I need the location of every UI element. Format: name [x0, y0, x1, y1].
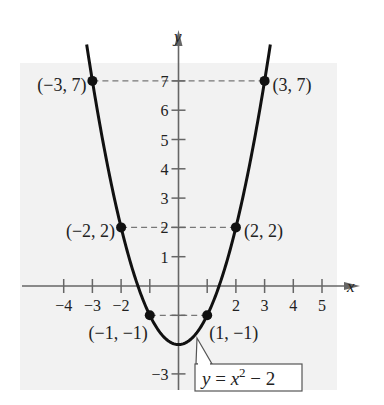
x-tick-label: −4 — [55, 297, 72, 314]
y-tick-label: 2 — [161, 219, 169, 236]
data-point-dot — [202, 310, 212, 320]
data-point-dot — [145, 310, 155, 320]
y-tick-label: 3 — [161, 190, 169, 207]
x-tick-label: 4 — [289, 297, 297, 314]
x-tick-label: −2 — [113, 297, 130, 314]
point-label: (−1, −1) — [89, 323, 148, 344]
equation-part: − 2 — [246, 368, 276, 389]
y-tick-label: 6 — [161, 102, 169, 119]
x-tick-label: 2 — [232, 297, 240, 314]
y-axis-label: y — [172, 27, 182, 46]
y-tick-label: −3 — [151, 366, 168, 383]
x-axis-label: x — [346, 277, 355, 296]
data-point-dot — [87, 76, 97, 86]
point-label: (3, 7) — [273, 75, 312, 96]
point-label: (1, −1) — [209, 323, 258, 344]
point-label: (−3, 7) — [37, 75, 86, 96]
point-label: (2, 2) — [244, 221, 283, 242]
point-label: (−2, 2) — [66, 221, 115, 242]
y-tick-label: 1 — [161, 249, 169, 266]
equation-text: y = x2 − 2 — [200, 365, 275, 389]
y-tick-label: 5 — [161, 132, 169, 149]
equation-part: = — [210, 368, 230, 389]
parabola-chart: −4−3−223457654321−3 (−3, 7)(3, 7)(−2, 2)… — [0, 0, 384, 405]
y-tick-label: 4 — [161, 161, 169, 178]
x-tick-label: 5 — [318, 297, 326, 314]
x-tick-label: 3 — [261, 297, 269, 314]
data-point-dot — [116, 222, 126, 232]
y-tick-label: 7 — [161, 73, 169, 90]
data-point-dot — [231, 222, 241, 232]
x-tick-label: −3 — [84, 297, 101, 314]
data-point-dot — [260, 76, 270, 86]
equation-part: y — [200, 368, 211, 389]
